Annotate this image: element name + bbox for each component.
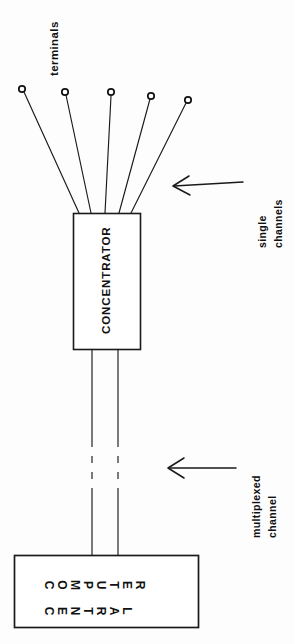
glyph: U bbox=[94, 579, 108, 592]
single-channel-line-2 bbox=[66, 95, 91, 213]
label-single-channels-line2: channels bbox=[272, 199, 284, 248]
label-central-box-line2: CENTRAL bbox=[42, 604, 133, 618]
single-channel-line-1 bbox=[24, 92, 79, 213]
glyph: A bbox=[107, 605, 121, 618]
multiplexed-channel-lines bbox=[92, 349, 118, 556]
terminal-node-1 bbox=[19, 86, 25, 92]
label-multiplexed-channel-line2: channel bbox=[266, 496, 278, 538]
label-single-channels-line1: single bbox=[256, 215, 268, 248]
glyph: P bbox=[81, 579, 95, 592]
single-channel-line-5 bbox=[131, 103, 186, 213]
glyph: T bbox=[107, 579, 121, 592]
single-channel-lines bbox=[24, 92, 186, 213]
glyph: E bbox=[55, 605, 69, 618]
single-channel-line-3 bbox=[105, 96, 111, 213]
glyph: L bbox=[120, 605, 134, 618]
glyph: C bbox=[42, 579, 56, 592]
glyph: E bbox=[120, 579, 134, 592]
arrow-single-channels-shaft bbox=[174, 182, 243, 186]
label-multiplexed-channel-line1: multiplexed bbox=[250, 475, 262, 538]
diagram-vector-layer bbox=[0, 0, 294, 644]
arrow-single-channels bbox=[173, 176, 243, 195]
label-concentrator: CONCENTRATOR bbox=[100, 227, 112, 334]
glyph: O bbox=[55, 579, 69, 592]
arrow-multiplexed-channel bbox=[168, 458, 236, 478]
glyph: N bbox=[68, 605, 82, 618]
label-terminals: terminals bbox=[48, 21, 60, 76]
glyph: R bbox=[133, 579, 147, 592]
terminal-node-2 bbox=[62, 89, 68, 95]
terminal-node-4 bbox=[148, 93, 154, 99]
terminal-node-3 bbox=[108, 89, 114, 95]
single-channel-line-4 bbox=[119, 99, 150, 213]
terminal-node-5 bbox=[185, 97, 191, 103]
glyph: C bbox=[42, 605, 56, 618]
glyph: R bbox=[94, 605, 108, 618]
label-central-box-line1: COMPUTER bbox=[42, 578, 146, 592]
glyph: T bbox=[81, 605, 95, 618]
terminal-nodes bbox=[19, 86, 191, 103]
diagram-canvas: terminals single channels multiplexed ch… bbox=[0, 0, 294, 644]
glyph: M bbox=[68, 579, 82, 592]
